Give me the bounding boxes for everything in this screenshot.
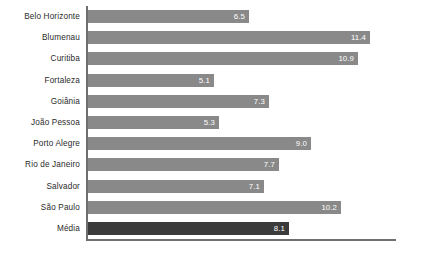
category-label: Goiânia xyxy=(0,91,80,112)
category-label: Salvador xyxy=(0,176,80,197)
bar-value-label: 5.1 xyxy=(199,74,210,87)
chart-row: Porto Alegre9.0 xyxy=(0,133,423,154)
bar: 5.3 xyxy=(88,116,219,129)
bar-container: 10.9 xyxy=(88,52,395,65)
bar-value-label: 7.7 xyxy=(264,158,275,171)
bar: 11.4 xyxy=(88,31,370,44)
bar-container: 7.3 xyxy=(88,95,395,108)
bar-value-label: 8.1 xyxy=(274,222,285,235)
bar-container: 6.5 xyxy=(88,10,395,23)
bar-container: 7.1 xyxy=(88,180,395,193)
category-label: Fortaleza xyxy=(0,70,80,91)
category-label: Curitiba xyxy=(0,48,80,69)
bar-value-label: 7.1 xyxy=(249,180,260,193)
bar-value-label: 7.3 xyxy=(254,95,265,108)
chart-row: Rio de Janeiro7.7 xyxy=(0,154,423,175)
category-label: João Pessoa xyxy=(0,112,80,133)
category-label: Belo Horizonte xyxy=(0,6,80,27)
bar-container: 5.3 xyxy=(88,116,395,129)
chart-row: Salvador7.1 xyxy=(0,176,423,197)
bar-highlight: 8.1 xyxy=(88,222,289,235)
bar-container: 9.0 xyxy=(88,137,395,150)
chart-row: João Pessoa5.3 xyxy=(0,112,423,133)
category-label: Blumenau xyxy=(0,27,80,48)
bar-container: 8.1 xyxy=(88,222,395,235)
bar-value-label: 5.3 xyxy=(204,116,215,129)
bar-value-label: 10.2 xyxy=(321,201,337,214)
chart-row: Blumenau11.4 xyxy=(0,27,423,48)
bar: 5.1 xyxy=(88,74,214,87)
category-label: Rio de Janeiro xyxy=(0,154,80,175)
bar: 7.3 xyxy=(88,95,269,108)
bar-container: 10.2 xyxy=(88,201,395,214)
category-label: São Paulo xyxy=(0,197,80,218)
bar-container: 5.1 xyxy=(88,74,395,87)
bar: 9.0 xyxy=(88,137,311,150)
chart-row: Belo Horizonte6.5 xyxy=(0,6,423,27)
bar-value-label: 11.4 xyxy=(351,31,366,44)
bar: 7.1 xyxy=(88,180,264,193)
chart-row: Curitiba10.9 xyxy=(0,48,423,69)
chart-row: Média8.1 xyxy=(0,218,423,239)
chart-row: São Paulo10.2 xyxy=(0,197,423,218)
x-axis-line xyxy=(86,239,396,241)
bar-value-label: 10.9 xyxy=(338,52,354,65)
bar-container: 7.7 xyxy=(88,158,395,171)
bar: 10.9 xyxy=(88,52,358,65)
bar: 10.2 xyxy=(88,201,341,214)
bar-chart: Belo Horizonte6.5Blumenau11.4Curitiba10.… xyxy=(0,0,423,256)
bar: 6.5 xyxy=(88,10,249,23)
bar-value-label: 6.5 xyxy=(234,10,245,23)
bar-container: 11.4 xyxy=(88,31,395,44)
bar: 7.7 xyxy=(88,158,279,171)
category-label: Média xyxy=(0,218,80,239)
chart-row: Fortaleza5.1 xyxy=(0,70,423,91)
category-label: Porto Alegre xyxy=(0,133,80,154)
chart-row: Goiânia7.3 xyxy=(0,91,423,112)
bar-value-label: 9.0 xyxy=(296,137,307,150)
